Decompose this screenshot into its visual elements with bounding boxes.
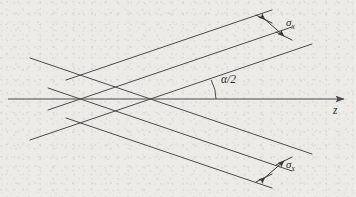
sigma-bottom-arrow (265, 161, 284, 178)
sigma-top-subscript: x (291, 22, 294, 31)
sigma-bottom-tick-lower (256, 174, 272, 182)
z-axis-label: z (333, 104, 337, 116)
beam-line-up-3 (30, 44, 312, 140)
alpha-half-arc (211, 80, 216, 99)
sigma-x-bottom-label: σx (286, 158, 295, 173)
sigma-top-arrow (265, 20, 284, 37)
beam-crossing-figure: σx σx α/2 z (0, 0, 356, 197)
figure-canvas (0, 0, 356, 197)
beam-line-up-2 (48, 27, 292, 110)
beam-line-down-1 (30, 58, 312, 154)
beam-line-down-2 (48, 88, 292, 171)
beam-line-down-3 (66, 118, 272, 188)
alpha-half-label: α/2 (221, 73, 236, 85)
sigma-bottom-subscript: x (291, 164, 294, 173)
sigma-top-tick-upper (256, 15, 272, 23)
sigma-x-top-label: σx (286, 16, 295, 31)
beam-line-up-1 (66, 10, 272, 80)
